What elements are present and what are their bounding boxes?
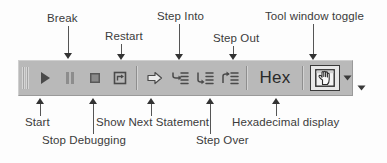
leader-line-stop-debugging: [93, 104, 94, 134]
start-button[interactable]: [32, 63, 57, 93]
show-next-statement-button[interactable]: [142, 63, 167, 93]
leader-line-show-next-statement: [151, 104, 152, 116]
callout-label-step-into: Step Into: [157, 10, 204, 22]
callout-label-hexadecimal-display: Hexadecimal display: [232, 116, 339, 128]
pause-icon: [64, 71, 76, 85]
callout-label-step-over: Step Over: [196, 134, 249, 146]
debug-toolbar-callout-figure: Break Restart Step Into Step Out Tool wi…: [0, 0, 387, 163]
callout-label-stop-debugging: Stop Debugging: [42, 134, 126, 146]
leader-line-hexadecimal-display: [276, 104, 277, 116]
hexadecimal-display-label: Hex: [260, 68, 291, 88]
toolbar-separator-2: [246, 66, 248, 90]
callout-label-show-next-statement: Show Next Statement: [96, 116, 209, 128]
callout-label-tool-window-toggle: Tool window toggle: [265, 10, 364, 22]
debug-toolbar[interactable]: Hex: [18, 60, 353, 96]
callout-label-restart: Restart: [105, 30, 143, 42]
callout-label-break: Break: [47, 12, 78, 24]
chevron-down-icon: [357, 85, 366, 91]
leader-line-break: [68, 26, 69, 54]
leader-line-start: [40, 104, 41, 116]
restart-button[interactable]: [107, 63, 132, 93]
break-button[interactable]: [57, 63, 82, 93]
step-out-button[interactable]: [217, 63, 242, 93]
arrowhead-break: [64, 53, 72, 59]
chevron-down-icon: [343, 75, 352, 81]
toolbar-separator-3: [302, 66, 304, 90]
hexadecimal-display-button[interactable]: Hex: [252, 63, 298, 93]
toolbar-separator-1: [136, 66, 138, 90]
callout-label-start: Start: [25, 116, 50, 128]
leader-line-step-into: [179, 24, 180, 55]
tool-window-dropdown-caret[interactable]: [340, 63, 354, 93]
leader-line-tool-window-toggle: [313, 24, 314, 55]
callout-label-step-out: Step Out: [213, 32, 259, 44]
step-over-icon: [196, 71, 214, 86]
toolbar-options-caret[interactable]: [354, 61, 368, 95]
step-into-button[interactable]: [167, 63, 192, 93]
tool-window-hand-icon: [315, 69, 335, 87]
restart-icon: [113, 71, 127, 85]
step-over-button[interactable]: [192, 63, 217, 93]
drag-grip-icon[interactable]: [22, 67, 29, 89]
tool-window-toggle-button[interactable]: [310, 65, 340, 91]
step-out-icon: [221, 71, 239, 86]
play-icon: [39, 71, 51, 85]
stop-debugging-button[interactable]: [82, 63, 107, 93]
stop-square-icon: [88, 71, 102, 85]
right-arrow-icon: [147, 71, 163, 85]
step-into-icon: [171, 71, 189, 86]
leader-line-step-over: [210, 104, 211, 134]
